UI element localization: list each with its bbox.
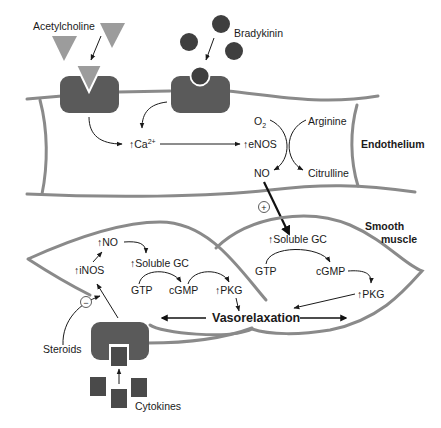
- cytokine-2: [111, 389, 127, 408]
- endothelium-right-wall: [352, 105, 358, 186]
- bradykinin-ligand-1: [180, 33, 198, 51]
- bradykinin-binding-arrow: [206, 38, 214, 60]
- enos-label: ↑eNOS: [243, 138, 277, 150]
- acetylcholine-label: Acetylcholine: [33, 20, 95, 32]
- steroids-label: Steroids: [43, 343, 82, 355]
- right-gtp-to-cgmp-arrow: [266, 249, 330, 264]
- arginine-label: Arginine: [308, 115, 347, 127]
- acetylcholine-ligand-1: [52, 36, 77, 61]
- cytokine-1: [90, 377, 106, 396]
- right-cgmp-label: cGMP: [316, 265, 345, 277]
- oxygen-label: O2: [254, 115, 266, 129]
- cytokine-3: [131, 378, 147, 397]
- cytokine-receptor-group: Cytokines − Steroids: [43, 284, 181, 412]
- endothelium-label: Endothelium: [361, 138, 425, 150]
- acetylcholine-receptor-group: Acetylcholine: [33, 20, 125, 113]
- left-no-label: ↑NO: [97, 236, 118, 248]
- right-soluble-gc-label: ↑Soluble GC: [268, 233, 327, 245]
- bradykinin-ligand-3: [225, 42, 243, 60]
- acetylcholine-ligand-2: [100, 23, 125, 48]
- left-pkg-label: ↑PKG: [215, 284, 242, 296]
- vasorelaxation-label: Vasorelaxation: [212, 311, 300, 325]
- svg-text:+: +: [261, 203, 266, 213]
- endothelium-bottom-membrane: [27, 186, 415, 197]
- left-soluble-gc-label: ↑Soluble GC: [130, 257, 189, 269]
- right-cell-pathway: ↑Soluble GC GTP cGMP ↑PKG: [255, 233, 384, 308]
- citrulline-label: Citrulline: [308, 167, 349, 179]
- vasorelaxation-group: Vasorelaxation: [162, 311, 346, 325]
- right-pkg-label: ↑PKG: [357, 288, 384, 300]
- arginine-to-citrulline-arrow: [289, 120, 306, 170]
- right-pkg-to-vasorelaxation-arrow: [294, 294, 355, 308]
- left-inos-label: ↑iNOS: [74, 264, 104, 276]
- no-pathway-diagram: Acetylcholine Bradykinin ↑Ca2+ ↑eNOS O2 …: [0, 0, 441, 428]
- bradykinin-receptor-group: Bradykinin: [171, 15, 283, 113]
- endothelium-pathway: ↑Ca2+ ↑eNOS O2 Arginine NO Citrulline En…: [89, 102, 425, 179]
- ach-to-calcium-arrow: [89, 117, 122, 144]
- cytokines-label: Cytokines: [135, 400, 181, 412]
- left-no-to-sgc-arrow: [124, 242, 146, 253]
- right-gtp-label: GTP: [255, 265, 277, 277]
- left-cgmp-to-pkg-arrow: [188, 272, 229, 284]
- acetylcholine-binding-arrow: [91, 36, 101, 60]
- right-cgmp-to-pkg-arrow: [348, 271, 371, 283]
- left-gtp-to-cgmp-arrow: [139, 272, 181, 284]
- endothelium-no-label: NO: [254, 167, 270, 179]
- left-inos-to-no-arrow: [93, 252, 102, 262]
- bk-to-calcium-arrow: [142, 102, 167, 128]
- left-pkg-to-vasorelaxation-arrow: [236, 298, 239, 311]
- bradykinin-bound-ligand: [191, 67, 210, 86]
- bradykinin-ligand-2: [212, 15, 230, 33]
- smooth-muscle-label-line2: muscle: [381, 233, 417, 245]
- left-gtp-label: GTP: [131, 284, 153, 296]
- svg-text:−: −: [83, 298, 88, 308]
- receptor-to-inos-arrow: [97, 284, 118, 318]
- bradykinin-label: Bradykinin: [234, 27, 283, 39]
- cytokine-bound: [111, 347, 127, 366]
- left-cgmp-label: cGMP: [169, 284, 198, 296]
- smooth-muscle-label-line1: Smooth: [365, 220, 404, 232]
- endothelium-left-wall: [40, 100, 46, 194]
- calcium-label: ↑Ca2+: [129, 138, 156, 150]
